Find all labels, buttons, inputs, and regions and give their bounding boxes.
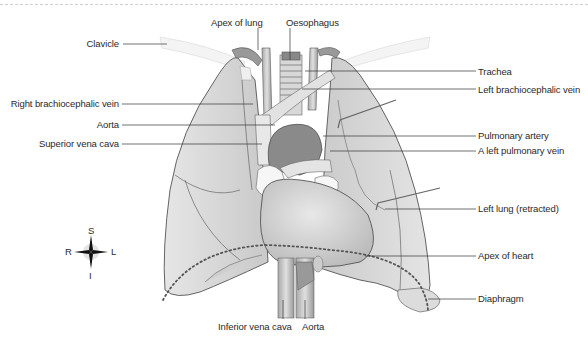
label-pulmonary-artery: Pulmonary artery	[478, 130, 549, 141]
compass-superior: S	[88, 226, 94, 236]
label-aorta-lower: Aorta	[302, 321, 324, 332]
label-aorta-upper: Aorta	[97, 119, 119, 130]
label-left-lung-retracted: Left lung (retracted)	[478, 203, 559, 214]
oesophagus-shape	[282, 52, 300, 60]
label-apex-of-lung: Apex of lung	[211, 17, 263, 28]
inferior-vessels	[278, 256, 323, 318]
compass-left: L	[111, 247, 116, 257]
label-right-brachiocephalic-vein: Right brachiocephalic vein	[11, 98, 119, 109]
compass-right: R	[65, 247, 72, 257]
compass-icon	[74, 235, 108, 269]
compass-inferior: I	[89, 271, 92, 281]
label-trachea: Trachea	[478, 66, 512, 77]
label-inferior-vena-cava: Inferior vena cava	[218, 321, 292, 332]
label-diaphragm: Diaphragm	[478, 293, 524, 304]
label-superior-vena-cava: Superior vena cava	[39, 138, 119, 149]
label-left-pulmonary-vein: A left pulmonary vein	[478, 145, 564, 156]
label-apex-of-heart: Apex of heart	[478, 250, 533, 261]
label-oesophagus: Oesophagus	[286, 17, 339, 28]
label-left-brachiocephalic-vein: Left brachiocephalic vein	[478, 84, 580, 95]
label-clavicle: Clavicle	[87, 38, 119, 49]
right-lung-shape	[164, 58, 268, 296]
